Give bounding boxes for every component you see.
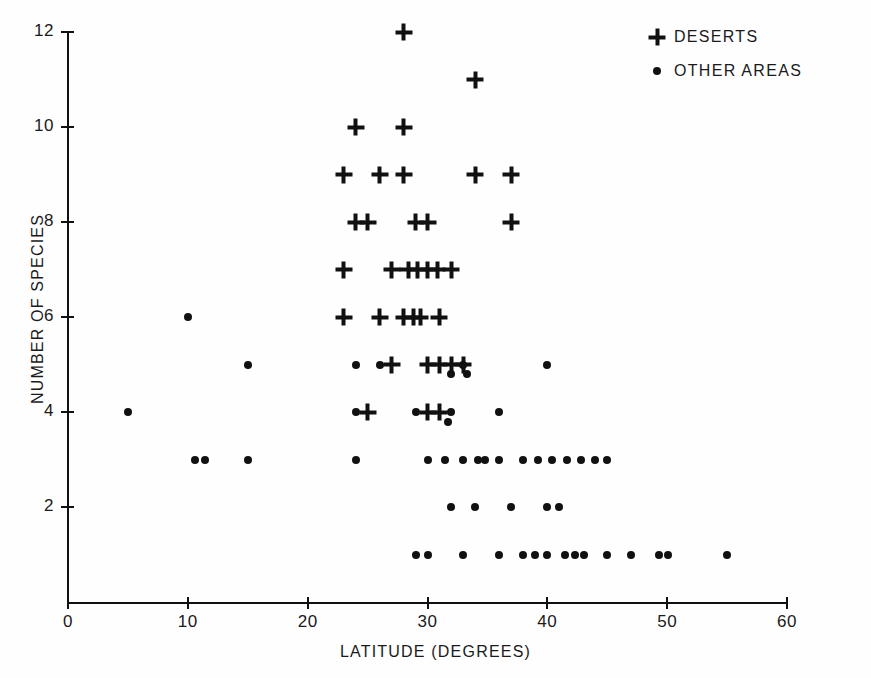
data-point-other-areas [444,418,452,426]
x-tick-mark [307,597,309,609]
data-point-other-areas [627,551,635,559]
x-tick-label: 10 [166,612,210,632]
data-point-other-areas [655,551,663,559]
data-point-other-areas [471,503,479,511]
data-point-other-areas [664,551,672,559]
data-point-deserts [335,309,352,326]
data-point-other-areas [561,551,569,559]
data-point-deserts [383,261,400,278]
data-point-other-areas [352,456,360,464]
data-point-deserts [395,119,412,136]
data-point-other-areas [424,456,432,464]
x-tick-label: 60 [765,612,809,632]
data-point-other-areas [447,503,455,511]
data-point-deserts [419,404,436,421]
data-point-deserts [431,404,448,421]
data-point-other-areas [519,551,527,559]
data-point-other-areas [459,456,467,464]
y-tick-mark [61,31,74,33]
x-tick-mark [67,597,69,609]
x-axis-title: LATITUDE (DEGREES) [0,643,871,661]
data-point-other-areas [543,551,551,559]
data-point-other-areas [352,408,360,416]
plot-area [0,0,871,678]
data-point-other-areas [577,456,585,464]
legend-item-other-areas: OTHER AREAS [648,54,802,88]
y-tick-mark [61,126,74,128]
data-point-deserts [443,261,460,278]
data-point-deserts [335,166,352,183]
data-point-deserts [371,166,388,183]
legend-label-deserts: DESERTS [674,28,758,46]
data-point-deserts [431,309,448,326]
data-point-other-areas [531,551,539,559]
y-tick-mark [61,411,74,413]
data-point-deserts [400,261,417,278]
x-tick-mark [546,597,548,609]
data-point-other-areas [543,361,551,369]
x-tick-label: 40 [525,612,569,632]
data-point-deserts [371,309,388,326]
data-point-other-areas [441,456,449,464]
data-point-other-areas [244,361,252,369]
data-point-other-areas [447,370,455,378]
data-point-deserts [503,214,520,231]
data-point-other-areas [543,503,551,511]
data-point-deserts [395,24,412,41]
y-axis-title: NUMBER OF SPECIES [29,179,47,439]
data-point-deserts [419,214,436,231]
y-tick-mark [61,506,74,508]
data-point-deserts [383,356,400,373]
data-point-other-areas [191,456,199,464]
x-tick-label: 0 [46,612,90,632]
y-tick-label: 2 [14,496,54,516]
x-tick-mark [786,597,788,609]
data-point-other-areas [507,503,515,511]
scatter-chart-figure: 24681012 0102030405060 LATITUDE (DEGREES… [0,0,871,678]
data-point-other-areas [481,456,489,464]
chart-legend: DESERTS OTHER AREAS [648,20,802,88]
data-point-other-areas [447,408,455,416]
data-point-other-areas [412,551,420,559]
y-tick-label: 12 [14,21,54,41]
data-point-other-areas [495,551,503,559]
data-point-other-areas [563,456,571,464]
data-point-deserts [409,261,426,278]
data-point-deserts [419,356,436,373]
data-point-deserts [359,404,376,421]
data-point-other-areas [244,456,252,464]
data-point-deserts [347,119,364,136]
data-point-other-areas [534,456,542,464]
data-point-other-areas [376,361,384,369]
x-tick-mark [187,597,189,609]
data-point-other-areas [555,503,563,511]
data-point-other-areas [201,456,209,464]
data-point-other-areas [548,456,556,464]
x-tick-label: 50 [645,612,689,632]
y-tick-mark [61,221,74,223]
data-point-deserts [419,261,436,278]
plus-marker-icon [648,27,674,47]
data-point-deserts [347,214,364,231]
data-point-other-areas [723,551,731,559]
legend-item-deserts: DESERTS [648,20,802,54]
x-tick-mark [427,597,429,609]
data-point-other-areas [519,456,527,464]
data-point-deserts [431,356,448,373]
data-point-other-areas [459,361,467,369]
data-point-deserts [405,309,422,326]
y-tick-label: 10 [14,116,54,136]
y-tick-mark [61,316,74,318]
data-point-other-areas [184,313,192,321]
data-point-other-areas [412,408,420,416]
data-point-deserts [412,309,429,326]
y-axis-line [67,32,69,604]
data-point-other-areas [459,551,467,559]
data-point-other-areas [580,551,588,559]
data-point-other-areas [463,370,471,378]
legend-label-other-areas: OTHER AREAS [674,62,802,80]
data-point-other-areas [124,408,132,416]
data-point-other-areas [352,361,360,369]
x-tick-label: 20 [286,612,330,632]
data-point-other-areas [603,551,611,559]
